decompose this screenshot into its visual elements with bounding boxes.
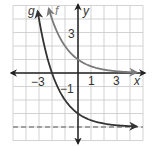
y-axis-label: y — [82, 4, 90, 18]
graph: g f y x −3 1 3 3 −1 — [0, 0, 153, 146]
x-axis-label: x — [133, 74, 141, 88]
x-tick-label-3: 3 — [113, 74, 120, 88]
curve-g — [38, 11, 137, 126]
f-curve-label: f — [55, 4, 60, 18]
y-tick-label-neg1: −1 — [60, 82, 74, 96]
curves — [38, 9, 137, 127]
x-tick-label-neg3: −3 — [31, 75, 45, 89]
y-tick-label-3: 3 — [68, 27, 75, 41]
x-tick-label-1: 1 — [88, 74, 95, 88]
g-curve-label: g — [28, 4, 35, 18]
curve-f — [49, 9, 137, 73]
axes — [11, 5, 145, 144]
